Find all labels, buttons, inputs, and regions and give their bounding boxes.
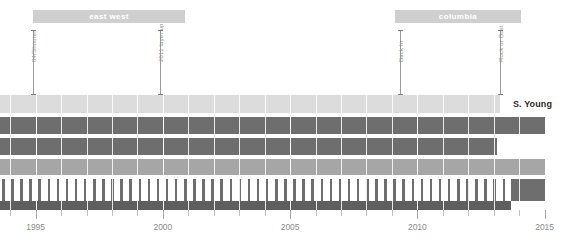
annotation-label: Rock or Bust bbox=[498, 25, 504, 62]
timeline-stripe bbox=[448, 179, 451, 201]
timeline-stripe bbox=[457, 179, 460, 201]
timeline-stripe bbox=[84, 179, 87, 201]
timeline-row-4[interactable] bbox=[0, 159, 545, 175]
timeline-stripe bbox=[321, 179, 324, 201]
timeline-stripe bbox=[239, 179, 242, 201]
timeline-stripe bbox=[175, 179, 178, 201]
timeline-stripe bbox=[248, 179, 251, 201]
timeline-row-2[interactable] bbox=[0, 117, 545, 134]
timeline-stripe bbox=[139, 179, 142, 201]
timeline-stripe bbox=[211, 179, 214, 201]
timeline-stripe bbox=[393, 179, 396, 201]
plot-area bbox=[0, 95, 565, 210]
axis-tick-label: 2000 bbox=[153, 222, 172, 232]
timeline-stripe bbox=[275, 179, 278, 201]
axis-tick-minor bbox=[468, 210, 469, 216]
axis-tick-minor bbox=[392, 210, 393, 216]
timeline-stripe bbox=[193, 179, 196, 201]
timeline-stripe bbox=[466, 179, 469, 201]
axis-tick-minor bbox=[137, 210, 138, 216]
axis-tick-label: 2010 bbox=[408, 222, 427, 232]
timeline-stripe bbox=[284, 179, 287, 201]
group-bar-columbia: columbia bbox=[395, 10, 521, 23]
axis-tick-minor bbox=[316, 210, 317, 216]
timeline-stripe bbox=[66, 179, 69, 201]
annotation-label: 2011 layer up bbox=[158, 23, 164, 62]
timeline-stripe bbox=[293, 179, 296, 201]
axis-tick-label: 2005 bbox=[281, 222, 300, 232]
axis-tick-minor bbox=[10, 210, 11, 216]
timeline-stripe bbox=[11, 179, 14, 201]
timeline-stripe bbox=[311, 179, 314, 201]
axis-tick-minor bbox=[494, 210, 495, 216]
axis-tick-minor bbox=[61, 210, 62, 216]
axis-tick-minor bbox=[188, 210, 189, 216]
timeline-stripe bbox=[475, 179, 478, 201]
timeline-stripe bbox=[493, 179, 496, 201]
x-axis: 19952000200520102015 bbox=[0, 210, 565, 243]
timeline-stripe bbox=[93, 179, 96, 201]
timeline-row-5-striped[interactable] bbox=[0, 179, 511, 201]
axis-tick-major bbox=[545, 210, 546, 219]
timeline-stripe bbox=[230, 179, 233, 201]
annotation-tip-icon bbox=[398, 30, 403, 31]
timeline-stripe bbox=[357, 179, 360, 201]
timeline-stripe bbox=[220, 179, 223, 201]
group-bar-east-west: east west bbox=[33, 10, 185, 23]
axis-tick-major bbox=[36, 210, 37, 219]
timeline-stripe bbox=[184, 179, 187, 201]
timeline-stripe bbox=[484, 179, 487, 201]
axis-tick-minor bbox=[341, 210, 342, 216]
timeline-stripe bbox=[157, 179, 160, 201]
row-name-text: S. Young bbox=[513, 99, 552, 109]
timeline-stripe bbox=[2, 179, 5, 201]
timeline-stripe bbox=[111, 179, 114, 201]
timeline-row-3[interactable] bbox=[0, 138, 497, 155]
timeline-stripe bbox=[384, 179, 387, 201]
axis-tick-minor bbox=[443, 210, 444, 216]
annotation-label: 84/Shooter bbox=[31, 31, 37, 62]
timeline-stripe bbox=[421, 179, 424, 201]
timeline-stripe bbox=[330, 179, 333, 201]
timeline-stripe bbox=[57, 179, 60, 201]
axis-tick-label: 2015 bbox=[535, 222, 554, 232]
timeline-row-1[interactable] bbox=[0, 95, 500, 113]
timeline-stripe bbox=[375, 179, 378, 201]
timeline-stripe bbox=[148, 179, 151, 201]
timeline-stripe bbox=[439, 179, 442, 201]
timeline-stripe bbox=[348, 179, 351, 201]
timeline-stripe bbox=[29, 179, 32, 201]
row-name-label: S. Young bbox=[500, 95, 565, 113]
timeline-stripe bbox=[120, 179, 123, 201]
timeline-stripe bbox=[412, 179, 415, 201]
axis-tick-minor bbox=[265, 210, 266, 216]
timeline-row-5-tail[interactable] bbox=[511, 179, 545, 201]
axis-tick-minor bbox=[214, 210, 215, 216]
timeline-stripe bbox=[366, 179, 369, 201]
axis-tick-minor bbox=[112, 210, 113, 216]
axis-tick-minor bbox=[519, 210, 520, 216]
timeline-chart: east west columbia 84/Shooter 2011 layer… bbox=[0, 0, 565, 243]
timeline-row-6[interactable] bbox=[0, 201, 511, 210]
timeline-stripe bbox=[129, 179, 132, 201]
timeline-stripe bbox=[503, 179, 506, 201]
timeline-stripe bbox=[38, 179, 41, 201]
timeline-stripe bbox=[266, 179, 269, 201]
timeline-stripe bbox=[102, 179, 105, 201]
axis-tick-minor bbox=[87, 210, 88, 216]
axis-tick-group: 19952000200520102015 bbox=[0, 210, 565, 243]
timeline-stripe bbox=[302, 179, 305, 201]
group-bar-label: east west bbox=[89, 12, 129, 21]
annotation-label: Back In bbox=[398, 41, 404, 62]
axis-tick-minor bbox=[366, 210, 367, 216]
timeline-stripe bbox=[202, 179, 205, 201]
axis-tick-major bbox=[290, 210, 291, 219]
axis-tick-minor bbox=[239, 210, 240, 216]
axis-tick-major bbox=[163, 210, 164, 219]
timeline-stripe bbox=[75, 179, 78, 201]
axis-tick-major bbox=[417, 210, 418, 219]
timeline-stripe bbox=[402, 179, 405, 201]
timeline-stripe bbox=[257, 179, 260, 201]
timeline-stripe bbox=[48, 179, 51, 201]
timeline-stripe bbox=[20, 179, 23, 201]
